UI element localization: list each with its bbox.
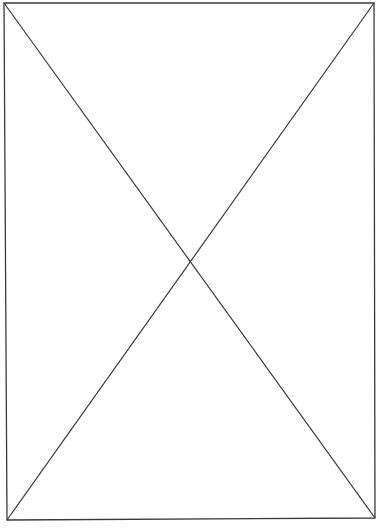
image-placeholder [0, 0, 382, 528]
placeholder-graphic [0, 0, 382, 528]
placeholder-diagonal-2 [7, 3, 374, 520]
